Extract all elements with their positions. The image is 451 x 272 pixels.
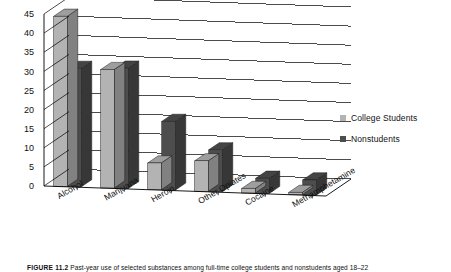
- y-axis-tick-40: 40: [24, 28, 34, 38]
- legend-item-nonstudents: Nonstudents: [340, 134, 448, 144]
- bar-college-students-marijuana: [101, 62, 125, 188]
- figure-container: 051015202530354045 AlcoholMarijuanaHeroi…: [0, 0, 451, 272]
- legend-label-college-students: College Students: [351, 113, 417, 123]
- y-axis-tick-20: 20: [24, 105, 34, 115]
- y-axis-tick-30: 30: [24, 67, 34, 77]
- figure-caption-number: FIGURE 11.2: [27, 264, 68, 271]
- legend-swatch-nonstudents: [340, 136, 346, 142]
- y-axis-tick-45: 45: [24, 9, 34, 19]
- legend-swatch-college-students: [340, 115, 346, 121]
- y-axis-tick-labels: 051015202530354045: [24, 9, 34, 191]
- figure-caption: FIGURE 11.2 Past-year use of selected su…: [27, 263, 437, 272]
- y-axis-tick-35: 35: [24, 47, 34, 57]
- bar-college-students-alcohol: [54, 9, 78, 186]
- chart-legend: College Students Nonstudents: [340, 113, 448, 155]
- y-axis-tick-0: 0: [29, 181, 34, 191]
- y-axis-tick-15: 15: [24, 124, 34, 134]
- y-axis-tick-10: 10: [24, 143, 34, 153]
- y-axis-tick-5: 5: [29, 162, 34, 172]
- legend-item-college-students: College Students: [340, 113, 448, 123]
- y-axis-tick-25: 25: [24, 86, 34, 96]
- legend-label-nonstudents: Nonstudents: [351, 134, 400, 144]
- figure-caption-text: Past-year use of selected substances amo…: [70, 264, 368, 271]
- plot-bars: [54, 9, 327, 195]
